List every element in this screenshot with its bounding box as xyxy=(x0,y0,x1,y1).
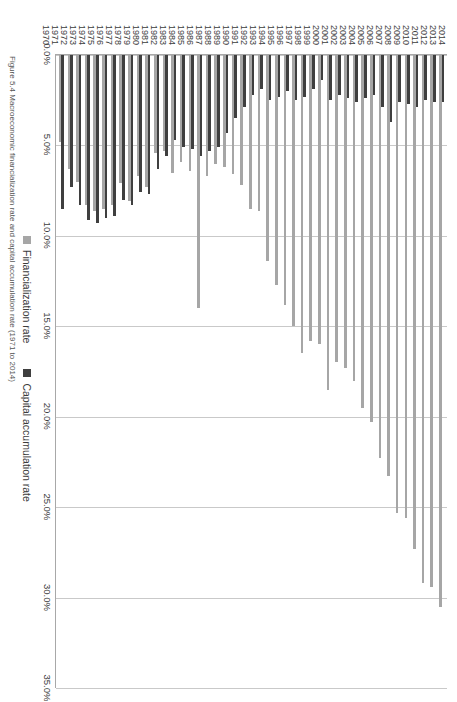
value-axis-tick-label: 15.0% xyxy=(42,312,53,339)
bar-row xyxy=(144,55,153,688)
category-axis-tick-label: 1985 xyxy=(176,0,185,50)
bar-row xyxy=(325,55,334,688)
figure-caption: Figure 5.4 Macroeconomic financializatio… xyxy=(8,56,17,382)
bar-row xyxy=(308,55,317,688)
bar-row xyxy=(368,55,377,688)
legend-label-capital-accumulation: Capital accumulation rate xyxy=(21,383,33,501)
bar-row xyxy=(57,55,66,688)
bar-row xyxy=(299,55,308,688)
legend-swatch-capital-accumulation xyxy=(23,369,31,377)
category-axis-tick-label: 1980 xyxy=(131,0,140,50)
legend-item-capital-accumulation: Capital accumulation rate xyxy=(21,369,33,501)
bar-row xyxy=(360,55,369,688)
bar-capital-accumulation xyxy=(442,55,445,102)
value-axis-tick-label: 25.0% xyxy=(42,493,53,520)
bar-financialization xyxy=(163,55,166,151)
category-axis-tick-label: 1974 xyxy=(77,0,86,50)
category-axis-tick-label: 2000 xyxy=(311,0,320,50)
category-axis-tick-label: 2001 xyxy=(320,0,329,50)
bar-financialization xyxy=(189,55,192,171)
category-axis-tick-label: 1975 xyxy=(86,0,95,50)
bar-capital-accumulation xyxy=(355,55,358,102)
bar-financialization xyxy=(275,55,278,285)
bar-financialization xyxy=(93,55,96,211)
bar-capital-accumulation xyxy=(208,55,211,151)
bar-capital-accumulation xyxy=(424,55,427,100)
legend-swatch-financialization xyxy=(23,236,31,244)
value-axis-tick-label: 5.0% xyxy=(42,134,53,156)
category-axis-tick-label: 2010 xyxy=(401,0,410,50)
gridline xyxy=(56,688,447,689)
bar-capital-accumulation xyxy=(329,55,332,100)
bar-row xyxy=(403,55,412,688)
bar-capital-accumulation xyxy=(113,55,116,216)
bar-financialization xyxy=(396,55,399,513)
bar-financialization xyxy=(258,55,261,211)
bar-financialization xyxy=(59,55,62,142)
bar-capital-accumulation xyxy=(286,55,289,91)
bar-row xyxy=(161,55,170,688)
category-axis-tick-label: 1993 xyxy=(248,0,257,50)
bar-financialization xyxy=(68,55,71,169)
figure-container: Financialization rate Capital accumulati… xyxy=(0,0,457,702)
bar-row xyxy=(66,55,75,688)
category-axis-tick-label: 1982 xyxy=(149,0,158,50)
category-axis-tick-label: 1984 xyxy=(167,0,176,50)
bar-row xyxy=(135,55,144,688)
bar-capital-accumulation xyxy=(165,55,168,156)
bar-row xyxy=(221,55,230,688)
category-axis-tick-label: 1986 xyxy=(185,0,194,50)
bar-financialization xyxy=(353,55,356,381)
bar-capital-accumulation xyxy=(243,55,246,107)
bar-capital-accumulation xyxy=(381,55,384,107)
value-axis-tick-label: 10.0% xyxy=(42,222,53,249)
bar-financialization xyxy=(266,55,269,261)
bar-row xyxy=(230,55,239,688)
category-axis-tick-label: 1991 xyxy=(230,0,239,50)
category-axis-tick-label: 1976 xyxy=(95,0,104,50)
bar-capital-accumulation xyxy=(416,55,419,107)
category-axis-tick-label: 2005 xyxy=(356,0,365,50)
bar-financialization xyxy=(387,55,390,476)
bar-row xyxy=(187,55,196,688)
bar-capital-accumulation xyxy=(398,55,401,102)
bar-capital-accumulation xyxy=(96,55,99,223)
bar-financialization xyxy=(154,55,157,153)
bar-financialization xyxy=(318,55,321,344)
category-axis-tick-label: 1997 xyxy=(284,0,293,50)
bar-capital-accumulation xyxy=(433,55,436,102)
bar-capital-accumulation xyxy=(200,55,203,156)
bar-capital-accumulation xyxy=(122,55,125,200)
category-axis-tick-label: 1978 xyxy=(113,0,122,50)
category-axis-tick-label: 2006 xyxy=(365,0,374,50)
bar-capital-accumulation xyxy=(347,55,350,98)
value-axis-tick-label: 20.0% xyxy=(42,403,53,430)
bar-capital-accumulation xyxy=(62,55,65,209)
category-axis-tick-label: 1979 xyxy=(122,0,131,50)
bar-financialization xyxy=(301,55,304,353)
bar-capital-accumulation xyxy=(373,55,376,95)
bar-row xyxy=(256,55,265,688)
bar-capital-accumulation xyxy=(105,55,108,218)
bar-row xyxy=(83,55,92,688)
bar-financialization xyxy=(344,55,347,368)
bar-row xyxy=(429,55,438,688)
category-axis-tick-label: 1983 xyxy=(158,0,167,50)
bar-rows xyxy=(56,55,447,688)
bar-financialization xyxy=(232,55,235,174)
category-axis-tick-label: 1998 xyxy=(293,0,302,50)
bar-row xyxy=(213,55,222,688)
category-axis-labels: 2014201320122011201020092008200720062005… xyxy=(55,0,447,50)
bar-capital-accumulation xyxy=(79,55,82,205)
bar-row xyxy=(178,55,187,688)
bar-row xyxy=(437,55,446,688)
bar-financialization xyxy=(439,55,442,607)
bar-capital-accumulation xyxy=(312,55,315,89)
bar-row xyxy=(265,55,274,688)
bar-financialization xyxy=(379,55,382,458)
category-axis-tick-label: 1987 xyxy=(194,0,203,50)
bar-row xyxy=(394,55,403,688)
bar-row xyxy=(170,55,179,688)
bar-row xyxy=(100,55,109,688)
bar-capital-accumulation xyxy=(234,55,237,118)
